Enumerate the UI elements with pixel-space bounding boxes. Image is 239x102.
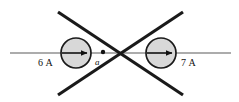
left-current-label: 6 A [38,58,53,68]
physics-diagram: 6 A 7 A a [0,0,239,102]
point-a-label: a [95,58,100,67]
right-current-label: 7 A [181,58,196,68]
diagram-canvas [0,0,239,102]
point-a-dot [101,50,105,54]
